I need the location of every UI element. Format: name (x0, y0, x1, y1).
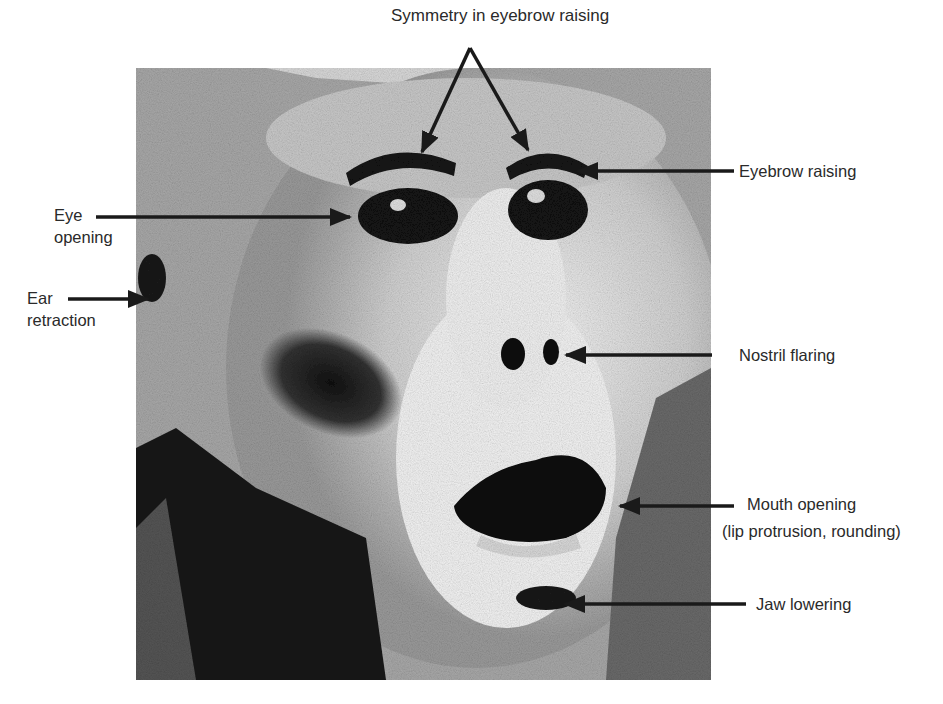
label-eye-opening-line1: Eye (54, 205, 82, 225)
arrow-symmetry-left (422, 48, 470, 152)
label-ear-retraction-line2: retraction (27, 310, 96, 330)
label-jaw-lowering: Jaw lowering (756, 594, 851, 614)
label-eyebrow-raising: Eyebrow raising (739, 161, 856, 181)
label-nostril-flaring: Nostril flaring (739, 345, 835, 365)
label-ear-retraction-line1: Ear (27, 288, 53, 308)
label-symmetry-eyebrow-raising: Symmetry in eyebrow raising (391, 6, 609, 26)
label-mouth-opening-line2: (lip protrusion, rounding) (722, 521, 901, 541)
arrow-symmetry-right (470, 48, 528, 150)
annotated-figure: Symmetry in eyebrow raising Eyebrow rais… (0, 0, 943, 704)
label-eye-opening-line2: opening (54, 227, 113, 247)
label-mouth-opening-line1: Mouth opening (747, 494, 856, 514)
